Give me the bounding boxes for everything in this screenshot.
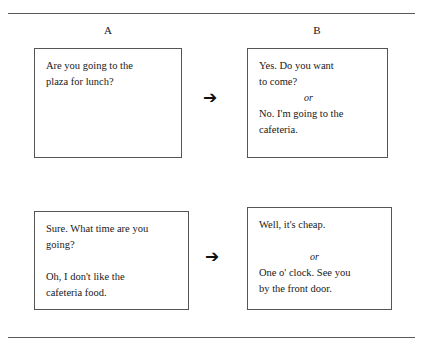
- dialogue-line-spacer: [259, 233, 380, 249]
- top-divider-rule: [8, 13, 415, 14]
- dialogue-line: Are you going to the: [46, 58, 170, 74]
- dialogue-box-row1-column-b: Yes. Do you want to come? or No. I'm goi…: [247, 48, 388, 158]
- dialogue-line: No. I'm going to the: [259, 106, 376, 122]
- dialogue-box-row1-column-a: Are you going to the plaza for lunch?: [34, 48, 182, 158]
- arrow-right-icon-row2: ➔: [205, 248, 219, 265]
- dialogue-line: by the front door.: [259, 281, 380, 297]
- dialogue-line: plaza for lunch?: [46, 74, 170, 90]
- bottom-divider-rule: [8, 337, 415, 338]
- dialogue-line: One o' clock. See you: [259, 265, 380, 281]
- column-header-a: A: [88, 24, 128, 37]
- dialogue-line: Well, it's cheap.: [259, 217, 380, 233]
- dialogue-line: Yes. Do you want: [259, 58, 376, 74]
- dialogue-line: Sure. What time are you: [46, 221, 177, 237]
- dialogue-line: cafeteria food.: [46, 285, 177, 301]
- dialogue-line: cafeteria.: [259, 122, 376, 138]
- figure-page: A B Are you going to the plaza for lunch…: [0, 0, 423, 344]
- dialogue-box-row2-column-b: Well, it's cheap. or One o' clock. See y…: [247, 207, 392, 310]
- dialogue-line: Oh, I don't like the: [46, 269, 177, 285]
- column-header-b: B: [297, 24, 337, 37]
- arrow-right-icon-row1: ➔: [203, 89, 217, 106]
- alternative-separator: or: [259, 249, 380, 265]
- dialogue-line-spacer: [46, 253, 177, 269]
- alternative-separator: or: [259, 90, 376, 106]
- dialogue-box-row2-column-a: Sure. What time are you going? Oh, I don…: [34, 211, 189, 310]
- dialogue-line: going?: [46, 237, 177, 253]
- dialogue-line: to come?: [259, 74, 376, 90]
